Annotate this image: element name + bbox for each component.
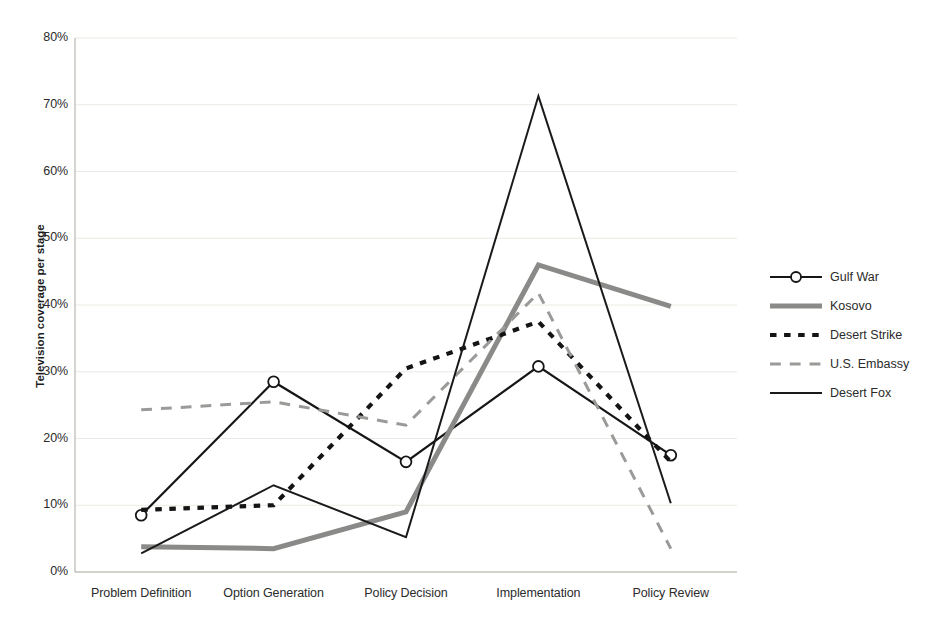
y-tick-label: 20% xyxy=(20,431,68,445)
legend-label: Gulf War xyxy=(830,270,879,284)
legend-swatch-icon xyxy=(770,328,822,342)
y-tick-label: 60% xyxy=(20,164,68,178)
legend-item-kosovo[interactable]: Kosovo xyxy=(770,291,920,320)
legend-item-gulf-war[interactable]: Gulf War xyxy=(770,262,920,291)
data-series-group xyxy=(136,96,676,553)
y-tick-label: 10% xyxy=(20,497,68,511)
chart-legend: Gulf WarKosovoDesert StrikeU.S. EmbassyD… xyxy=(770,262,920,407)
x-tick-label-4: Policy Review xyxy=(581,586,761,600)
series-line-gulf-war xyxy=(141,366,671,515)
data-point-marker xyxy=(401,456,412,467)
legend-label: Desert Fox xyxy=(830,386,891,400)
legend-item-u-s-embassy[interactable]: U.S. Embassy xyxy=(770,349,920,378)
y-tick-label: 70% xyxy=(20,97,68,111)
legend-swatch-icon xyxy=(770,357,822,371)
series-line-desert-strike xyxy=(141,322,671,510)
data-point-marker xyxy=(268,376,279,387)
legend-label: Kosovo xyxy=(830,299,872,313)
y-tick-label: 80% xyxy=(20,30,68,44)
legend-swatch-icon xyxy=(770,299,822,313)
gridlines-group xyxy=(75,38,737,572)
y-tick-label: 0% xyxy=(20,564,68,578)
legend-item-desert-strike[interactable]: Desert Strike xyxy=(770,320,920,349)
series-line-kosovo xyxy=(141,265,671,549)
legend-item-desert-fox[interactable]: Desert Fox xyxy=(770,378,920,407)
series-line-desert-fox xyxy=(141,96,671,553)
y-axis-title: Television coverage per stage xyxy=(34,211,46,401)
legend-swatch-icon xyxy=(770,270,822,284)
legend-label: Desert Strike xyxy=(830,328,902,342)
chart-figure: 0%10%20%30%40%50%60%70%80% Problem Defin… xyxy=(0,0,927,632)
legend-swatch-icon xyxy=(770,386,822,400)
data-point-marker xyxy=(533,361,544,372)
legend-label: U.S. Embassy xyxy=(830,357,909,371)
